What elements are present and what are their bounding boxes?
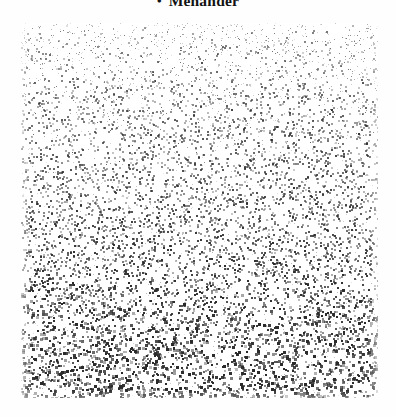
- document-page: •Menander: [0, 0, 396, 417]
- bullet-icon: •: [157, 0, 162, 11]
- halftone-image-plate: [21, 23, 378, 398]
- page-heading: •Menander: [0, 0, 396, 11]
- heading-clip-region: •Menander: [0, 0, 396, 11]
- stipple-canvas: [21, 23, 378, 398]
- heading-label: Menander: [169, 0, 239, 11]
